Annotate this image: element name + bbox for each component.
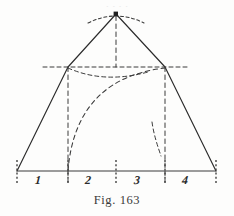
- large-dashed-curve: [68, 68, 165, 171]
- right-arc-fragment: [152, 122, 161, 156]
- segment-label-2: 2: [80, 174, 97, 186]
- segment-label-1: 1: [30, 174, 47, 186]
- apex-point: [114, 12, 118, 16]
- segment-label-4: 4: [177, 174, 194, 186]
- shallow-dashed-curve: [68, 68, 148, 77]
- figure-page: · · · ·: [0, 0, 234, 216]
- segment-label-3: 3: [129, 174, 146, 186]
- triangle-outline: [17, 14, 216, 171]
- figure-caption: Fig. 163: [0, 193, 234, 208]
